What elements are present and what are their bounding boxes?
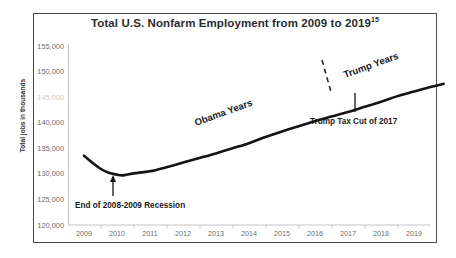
x-tick-label: 2013 bbox=[208, 229, 224, 238]
trump-era-label: Trump Years bbox=[342, 50, 400, 80]
y-axis-tick-labels: 155,000 150,000 145,000 140,000 135,000 … bbox=[37, 42, 64, 230]
x-axis-tick-labels: 2009 2010 2011 2012 2013 2014 2015 2016 … bbox=[76, 229, 422, 238]
recession-annotation-label: End of 2008-2009 Recession bbox=[75, 201, 185, 210]
x-tick-label: 2016 bbox=[307, 229, 323, 238]
era-divider-dashed bbox=[322, 60, 331, 92]
chart-plot-area: 155,000 150,000 145,000 140,000 135,000 … bbox=[0, 0, 456, 258]
x-tick-label: 2019 bbox=[406, 229, 422, 238]
y-tick-label: 155,000 bbox=[37, 42, 64, 51]
y-tick-label: 135,000 bbox=[37, 144, 64, 153]
recession-annotation-arrow bbox=[110, 175, 116, 196]
tax-cut-annotation-label: Trump Tax Cut of 2017 bbox=[310, 117, 398, 126]
x-tick-label: 2017 bbox=[340, 229, 356, 238]
y-tick-label-obscured: 145,000 bbox=[37, 93, 64, 102]
y-tick-label: 140,000 bbox=[37, 118, 64, 127]
employment-line-series bbox=[84, 84, 444, 176]
x-tick-label: 2015 bbox=[274, 229, 290, 238]
x-tick-label: 2009 bbox=[76, 229, 92, 238]
y-tick-label: 120,000 bbox=[37, 221, 64, 230]
obama-era-label: Obama Years bbox=[193, 97, 254, 128]
x-tick-label: 2011 bbox=[142, 229, 157, 238]
x-tick-label: 2010 bbox=[109, 229, 125, 238]
y-tick-label: 150,000 bbox=[37, 67, 64, 76]
chart-screenshot: Total U.S. Nonfarm Employment from 2009 … bbox=[0, 0, 456, 258]
y-tick-label: 130,000 bbox=[37, 169, 64, 178]
x-tick-label: 2018 bbox=[373, 229, 389, 238]
x-tick-label: 2014 bbox=[241, 229, 257, 238]
x-tick-label: 2012 bbox=[175, 229, 191, 238]
y-tick-label: 125,000 bbox=[37, 195, 64, 204]
